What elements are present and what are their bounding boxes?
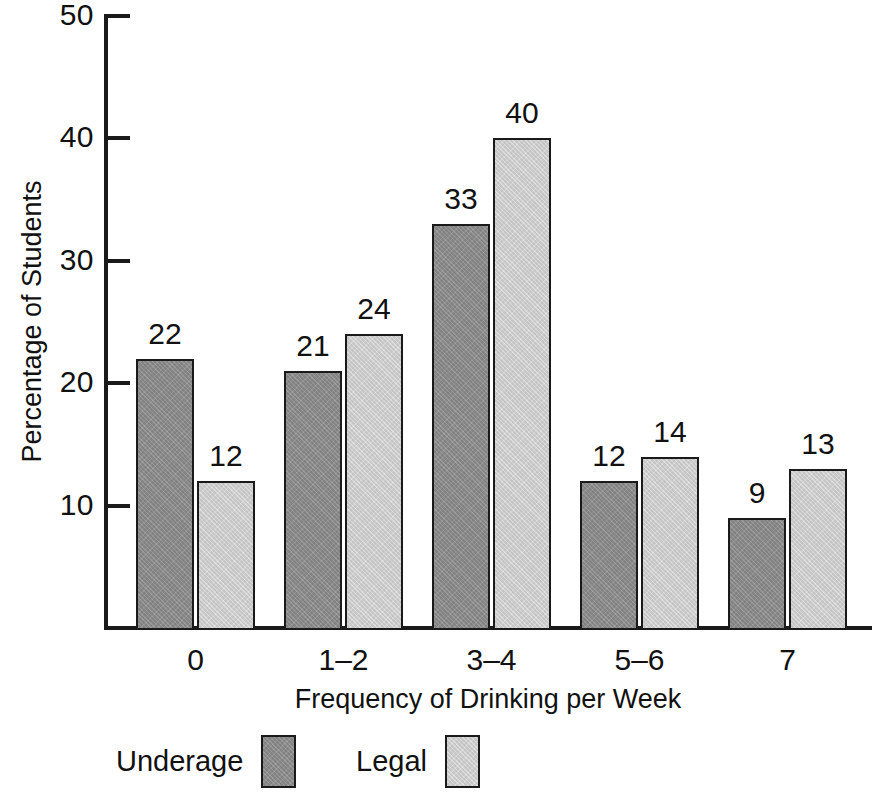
- x-axis-title: Frequency of Drinking per Week: [104, 684, 872, 715]
- bar-underage-1: [284, 371, 342, 630]
- x-axis-category-label: 7: [708, 644, 868, 676]
- y-axis-line: [104, 14, 108, 630]
- x-axis-category-label: 3–4: [412, 644, 572, 676]
- bar-value-label: 14: [621, 417, 719, 447]
- x-axis-category-label: 1–2: [264, 644, 424, 676]
- bar-legal-4: [789, 469, 847, 630]
- x-axis-category-label: 0: [116, 644, 276, 676]
- legend-label-legal: Legal: [356, 747, 427, 776]
- plot-area: 5040302010 Percentage of Students 221221…: [0, 0, 889, 660]
- bar-value-label: 24: [325, 294, 423, 324]
- bar-legal-0: [197, 481, 255, 630]
- legend-label-underage: Underage: [116, 747, 243, 776]
- bar-value-label: 40: [473, 98, 571, 128]
- bar-underage-2: [432, 224, 490, 630]
- bar-legal-3: [641, 457, 699, 630]
- bar-value-label: 22: [116, 319, 214, 349]
- bar-legal-2: [493, 138, 551, 630]
- y-axis-tick-mark: [108, 136, 130, 140]
- y-axis-tick-mark: [108, 259, 130, 263]
- bar-underage-3: [580, 481, 638, 630]
- y-axis-tick-label: 50: [34, 0, 94, 30]
- bar-value-label: 13: [769, 429, 867, 459]
- y-axis-tick-mark: [108, 381, 130, 385]
- legend-entry-underage: Underage: [116, 735, 296, 788]
- y-axis-tick-mark: [108, 14, 130, 18]
- x-axis-category-label: 5–6: [560, 644, 720, 676]
- chart-legend: Underage Legal: [0, 735, 889, 805]
- bar-legal-1: [345, 334, 403, 630]
- y-axis-title: Percentage of Students: [17, 122, 48, 522]
- bar-chart-figure: 5040302010 Percentage of Students 221221…: [0, 0, 889, 806]
- y-axis-tick-mark: [108, 504, 130, 508]
- legend-swatch-underage: [261, 735, 296, 788]
- legend-entry-legal: Legal: [356, 735, 480, 788]
- legend-swatch-legal: [445, 735, 480, 788]
- bar-value-label: 12: [177, 441, 275, 471]
- bar-underage-0: [136, 359, 194, 630]
- bar-underage-4: [728, 518, 786, 630]
